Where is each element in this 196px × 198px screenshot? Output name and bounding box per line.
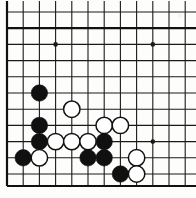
white-stone-c5r8[interactable] — [80, 133, 96, 149]
hoshi-upper-left-icon — [53, 42, 58, 47]
black-stone-c2r7[interactable] — [31, 117, 47, 133]
black-stone-c6r8[interactable] — [96, 133, 112, 149]
goban-svg[interactable] — [0, 0, 196, 198]
black-stone-c5r9[interactable] — [80, 150, 96, 166]
black-stone-c2r5[interactable] — [31, 85, 47, 101]
white-stone-c6r7[interactable] — [96, 117, 112, 133]
board-background — [0, 0, 196, 198]
white-stone-c4r6[interactable] — [64, 101, 80, 117]
hoshi-lower-right-icon — [151, 139, 156, 144]
white-stone-c8r10[interactable] — [128, 166, 144, 182]
black-stone-c1r9[interactable] — [15, 150, 31, 166]
white-stone-c3r8[interactable] — [47, 133, 63, 149]
black-stone-c2r8[interactable] — [31, 133, 47, 149]
white-stone-c7r7[interactable] — [112, 117, 128, 133]
go-board-diagram — [0, 0, 196, 198]
hoshi-upper-right-icon — [151, 42, 156, 47]
white-stone-c8r9[interactable] — [128, 150, 144, 166]
black-stone-c6r9[interactable] — [96, 150, 112, 166]
white-stone-c4r8[interactable] — [64, 133, 80, 149]
white-stone-c2r9[interactable] — [31, 150, 47, 166]
black-stone-c7r10[interactable] — [112, 166, 128, 182]
